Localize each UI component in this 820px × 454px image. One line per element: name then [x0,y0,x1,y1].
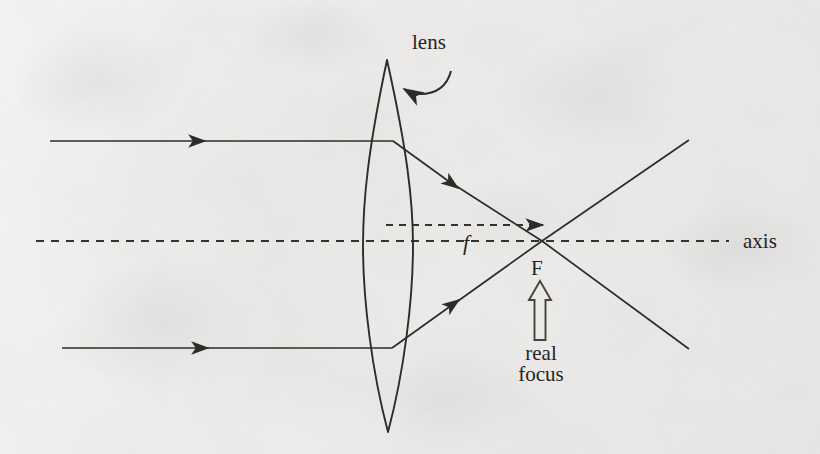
lens-outline [363,60,413,432]
optics-ray-diagram-figure: lens axis f F real focus [0,0,820,454]
lens-label: lens [412,32,446,53]
diverging-upper-ray [542,241,689,349]
focus-caption-line-2: focus [503,364,579,385]
focal-length-label: f [463,232,469,254]
focus-pointer-arrow [529,281,551,340]
refracted-lower-ray [392,300,459,348]
lens-callout-arrow [404,71,451,94]
diverging-lower-ray [542,140,689,241]
focal-point-label: F [531,258,543,279]
focus-caption-line-1: real [509,343,573,364]
axis-label: axis [743,231,777,252]
refracted-upper-ray [393,141,458,188]
ray-diagram-canvas [0,0,820,454]
